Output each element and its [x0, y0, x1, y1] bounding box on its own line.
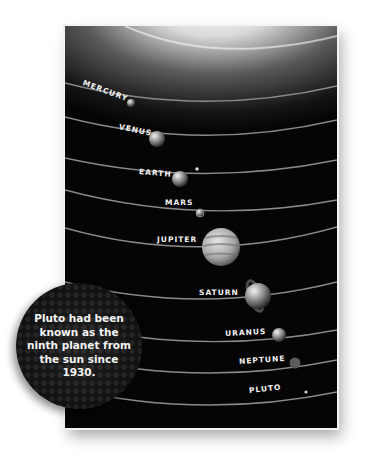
callout-text: Pluto had been known as the ninth planet…: [23, 312, 135, 380]
orbit-mars: [65, 190, 337, 211]
planet-neptune: [290, 358, 301, 369]
planet-saturn: [244, 279, 271, 313]
label-saturn: SATURN: [199, 288, 239, 297]
planet-pluto: [304, 390, 307, 393]
label-jupiter: JUPITER: [157, 235, 197, 244]
moon: [195, 167, 199, 171]
planet-uranus: [272, 328, 286, 342]
orbit-jupiter: [65, 227, 337, 247]
planet-mars: [196, 209, 204, 217]
planet-jupiter: [202, 228, 240, 266]
pluto-fact-callout: Pluto had been known as the ninth planet…: [16, 283, 142, 409]
planet-earth: [172, 171, 188, 187]
planet-mercury: [127, 99, 135, 107]
label-mars: MARS: [165, 198, 193, 207]
